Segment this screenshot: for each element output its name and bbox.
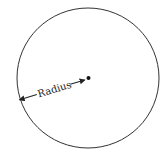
radius-label: Radius <box>36 79 73 100</box>
radius-arrow-left <box>20 95 37 100</box>
center-point <box>87 76 91 80</box>
circle-diagram: Radius <box>0 0 167 156</box>
radius-arrow-right <box>70 80 84 84</box>
